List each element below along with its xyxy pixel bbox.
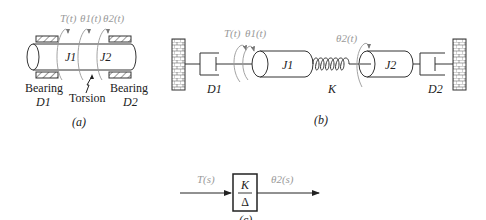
panel-b: T(t) θ1(t) J1 K J2 θ2(t) D2 D1 [172,27,466,127]
output-label: θ2(s) [271,173,294,186]
panel-c: T(s) K Δ θ2(s) (c) [180,173,319,220]
block-numerator: K [240,178,250,192]
theta1-label-b: θ1(t) [245,27,267,40]
j1-label-a: J1 [65,50,76,64]
block-denominator: Δ [241,195,249,209]
j2-label-b: J2 [385,58,396,72]
caption-a: (a) [72,115,86,129]
input-label: T(s) [197,173,215,186]
j2-label-a: J2 [100,50,111,64]
caption-b: (b) [314,113,328,127]
damper-d1-label: D1 [206,82,222,96]
shaft [27,44,136,70]
wall-left [172,39,185,90]
j1-label-b: J1 [282,58,293,72]
torsion-label: Torsion [69,91,106,105]
wall-right [453,39,466,90]
caption-c: (c) [239,213,252,220]
figure-canvas: T(t) θ1(t) θ2(t) J1 J2 Bearing D1 Torsio… [0,0,486,220]
bearing-right-top [109,36,131,42]
torque-label-a: T(t) [60,12,77,25]
theta2-label-a: θ2(t) [103,12,125,25]
spring-k [313,58,360,70]
bearing-left-bottom [36,72,58,78]
bearing-right-label: Bearing [110,81,148,95]
damper-d2-label: D2 [427,82,443,96]
torque-label-b: T(t) [224,27,241,40]
damper-d2 [413,53,453,75]
theta2-label-b: θ2(t) [336,32,358,45]
bearing-right-damping: D2 [122,95,138,109]
spring-label: K [327,82,337,96]
bearing-left-damping: D1 [35,95,51,109]
bearing-left-top [36,36,58,42]
panel-a: T(t) θ1(t) θ2(t) J1 J2 Bearing D1 Torsio… [25,12,148,129]
bearing-right-bottom [109,72,131,78]
damper-d1 [185,53,257,75]
bearing-left-label: Bearing [25,81,63,95]
theta1-label-a: θ1(t) [80,12,102,25]
